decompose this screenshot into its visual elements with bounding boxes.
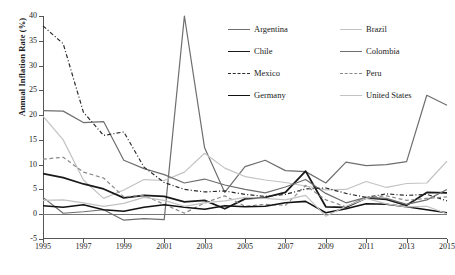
y-tick-label: 20 bbox=[29, 111, 37, 119]
x-tick-label: 1995 bbox=[35, 243, 51, 251]
y-tick-label: 0 bbox=[33, 210, 37, 218]
x-tick-label: 2003 bbox=[197, 243, 213, 251]
legend-swatch-icon bbox=[340, 73, 362, 74]
series-line-brazil bbox=[43, 116, 447, 198]
legend-label: Brazil bbox=[366, 25, 387, 34]
legend-label: Mexico bbox=[254, 69, 280, 78]
legend-item-germany: Germany bbox=[228, 91, 340, 100]
legend-swatch-icon bbox=[340, 51, 362, 52]
x-tick-label: 1999 bbox=[116, 243, 132, 251]
x-tick-label: 2015 bbox=[439, 243, 455, 251]
x-tick-label: 2001 bbox=[156, 243, 172, 251]
y-tick-label: 40 bbox=[29, 12, 37, 20]
x-tick-label: 1997 bbox=[75, 243, 91, 251]
legend-swatch-icon bbox=[228, 51, 250, 52]
legend-item-brazil: Brazil bbox=[340, 25, 450, 34]
legend-swatch-icon bbox=[228, 73, 250, 74]
x-tick-label: 2013 bbox=[399, 243, 415, 251]
legend-item-colombia: Colombia bbox=[340, 47, 450, 56]
y-axis-title: Annual Inflation Rate (%) bbox=[17, 0, 27, 147]
legend-item-peru: Peru bbox=[340, 69, 450, 78]
legend-label: Germany bbox=[254, 91, 286, 100]
inflation-line-chart: Annual Inflation Rate (%) -5051015202530… bbox=[0, 0, 455, 275]
chart-legend: ArgentinaBrazilChileColombiaMexicoPeruGe… bbox=[228, 18, 450, 106]
legend-swatch-icon bbox=[340, 95, 362, 96]
series-line-germany bbox=[43, 201, 447, 212]
legend-item-argentina: Argentina bbox=[228, 25, 340, 34]
legend-item-mexico: Mexico bbox=[228, 69, 340, 78]
y-tick-label: 5 bbox=[33, 185, 37, 193]
legend-swatch-icon bbox=[340, 29, 362, 30]
y-tick-label: 35 bbox=[29, 37, 37, 45]
x-tick-label: 2011 bbox=[358, 243, 374, 251]
legend-label: Chile bbox=[254, 47, 272, 56]
series-line-colombia bbox=[43, 111, 447, 205]
legend-item-chile: Chile bbox=[228, 47, 340, 56]
legend-label: Argentina bbox=[254, 25, 288, 34]
y-tick-label: 15 bbox=[29, 136, 37, 144]
legend-label: Peru bbox=[366, 69, 382, 78]
legend-swatch-icon bbox=[228, 29, 250, 30]
legend-label: Colombia bbox=[366, 47, 400, 56]
legend-label: United States bbox=[366, 91, 412, 100]
x-tick-label: 2007 bbox=[277, 243, 293, 251]
legend-item-united-states: United States bbox=[340, 91, 450, 100]
y-tick-label: 25 bbox=[29, 86, 37, 94]
x-tick-label: 2005 bbox=[237, 243, 253, 251]
legend-swatch-icon bbox=[228, 95, 250, 96]
y-tick-label: 10 bbox=[29, 161, 37, 169]
y-tick-label: 30 bbox=[29, 62, 37, 70]
x-tick-label: 2009 bbox=[318, 243, 334, 251]
